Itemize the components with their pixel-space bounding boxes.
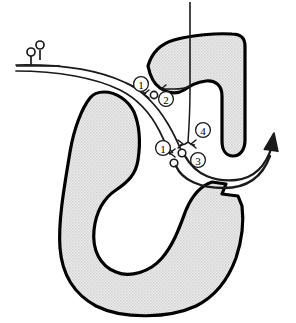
- label-1-upper: 1: [134, 77, 149, 92]
- label-2: 2: [159, 92, 174, 107]
- circuit-diagram-canvas: 1 2 1 3 4: [0, 0, 296, 323]
- bouton-top-left-b: [36, 41, 44, 49]
- figure-root: 1 2 1 3 4: [0, 0, 296, 323]
- label-3-text: 3: [195, 155, 201, 167]
- label-1-lower: 1: [156, 141, 171, 156]
- label-3: 3: [191, 153, 206, 168]
- bouton-top-left-a: [27, 48, 35, 56]
- label-2-text: 2: [163, 94, 169, 106]
- label-4: 4: [196, 123, 211, 138]
- label-1-upper-text: 1: [138, 79, 144, 91]
- label-1-lower-text: 1: [160, 143, 166, 155]
- label-4-text: 4: [200, 125, 206, 137]
- bouton-mid-a: [150, 91, 157, 98]
